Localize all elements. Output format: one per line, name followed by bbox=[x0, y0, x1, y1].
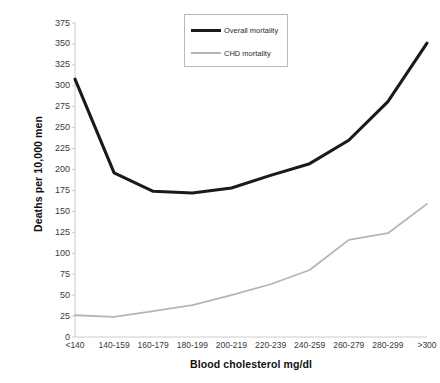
legend-swatch-chd-mortality bbox=[191, 52, 221, 54]
legend-label-overall-mortality: Overall mortality bbox=[224, 26, 278, 35]
legend-label-chd-mortality: CHD mortality bbox=[224, 49, 271, 58]
legend-item-overall-mortality: Overall mortality bbox=[191, 24, 278, 36]
legend-swatch-overall-mortality bbox=[191, 29, 221, 32]
mortality-line-chart: Deaths per 10,000 men 025507510012515017… bbox=[0, 0, 440, 383]
legend-item-chd-mortality: CHD mortality bbox=[191, 47, 271, 59]
x-tick-label: >300 bbox=[397, 340, 440, 350]
legend: Overall mortality CHD mortality bbox=[184, 14, 288, 67]
x-axis-title: Blood cholesterol mg/dl bbox=[75, 358, 427, 370]
